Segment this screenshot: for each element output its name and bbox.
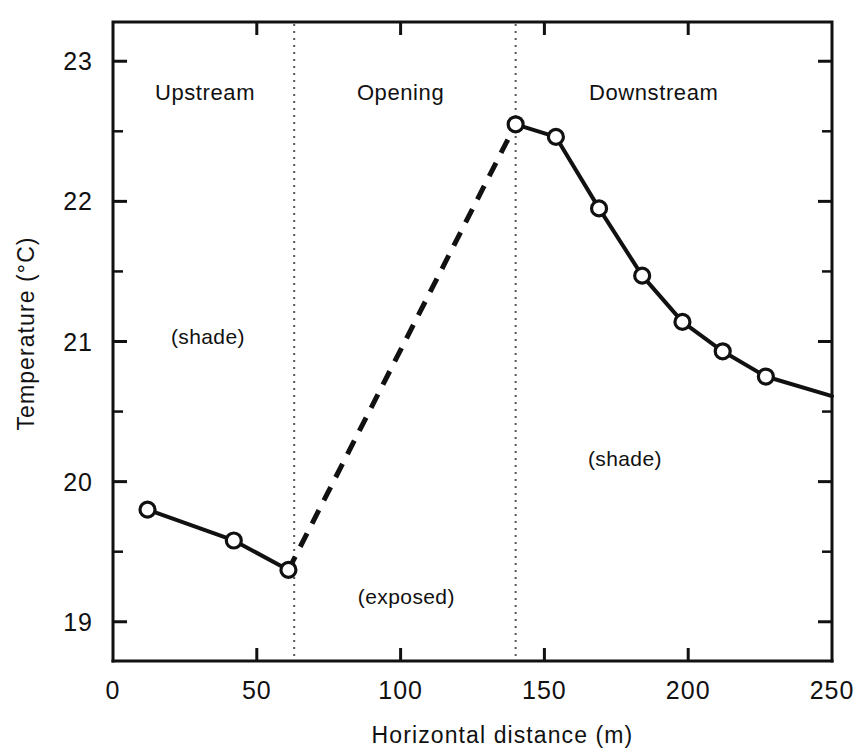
region-label: Upstream xyxy=(155,80,255,105)
x-tick-label: 50 xyxy=(242,676,272,704)
series-line xyxy=(288,124,515,570)
data-point-marker xyxy=(758,369,773,384)
data-point-marker xyxy=(548,129,563,144)
y-tick-label: 19 xyxy=(63,608,93,636)
x-axis-title: Horizontal distance (m) xyxy=(372,722,634,748)
chart-canvas: 1920212223050100150200250UpstreamOpening… xyxy=(0,0,865,756)
data-point-marker xyxy=(508,117,523,132)
chart-annotation: (shade) xyxy=(171,325,245,348)
y-tick-label: 23 xyxy=(63,47,93,75)
x-tick-label: 250 xyxy=(810,676,855,704)
data-point-marker xyxy=(715,344,730,359)
series-line xyxy=(148,510,289,570)
x-tick-label: 100 xyxy=(378,676,423,704)
data-point-marker xyxy=(592,201,607,216)
series-line xyxy=(516,124,832,396)
data-point-marker xyxy=(635,268,650,283)
data-point-marker xyxy=(675,314,690,329)
region-label: Downstream xyxy=(589,80,718,105)
temperature-distance-chart: 1920212223050100150200250UpstreamOpening… xyxy=(0,0,865,756)
region-label: Opening xyxy=(357,80,444,105)
x-tick-label: 0 xyxy=(106,676,121,704)
y-axis-title: Temperature (°C) xyxy=(13,236,39,430)
y-tick-label: 21 xyxy=(63,328,93,356)
data-point-marker xyxy=(281,562,296,577)
chart-annotation: (shade) xyxy=(588,447,662,470)
data-point-marker xyxy=(226,533,241,548)
data-point-marker xyxy=(140,502,155,517)
x-tick-label: 150 xyxy=(522,676,567,704)
y-tick-label: 20 xyxy=(63,468,93,496)
y-tick-label: 22 xyxy=(63,187,93,215)
x-tick-label: 200 xyxy=(666,676,711,704)
chart-annotation: (exposed) xyxy=(358,585,455,608)
